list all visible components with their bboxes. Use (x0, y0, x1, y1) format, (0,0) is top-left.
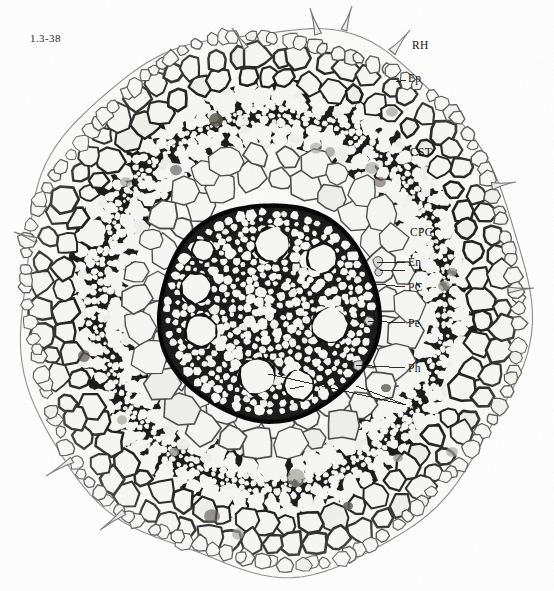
film-grain (0, 0, 554, 591)
plate-number: 1.3-38 (30, 32, 61, 44)
annotation-label-endodermis: En (408, 257, 421, 269)
annotation-label-phloem: Ph (408, 363, 421, 375)
annotation-label-epidermis: Ep (408, 73, 421, 85)
annotation-label-pericycle: Pe (408, 318, 420, 330)
annotation-label-root-hair: RH (412, 40, 429, 52)
micrograph-figure: 1.3-38 RHEpCSTCPCEnPCPePhX (0, 0, 554, 591)
annotation-label-passage-cell: PC (408, 282, 423, 294)
annotation-label-cortex-parenchyma-cells: CPC (410, 227, 433, 239)
annotation-label-xylem: X (410, 400, 419, 412)
annotation-label-cortex-sclerenchyma-tissue: CST (410, 147, 432, 159)
root-cross-section-image (0, 0, 554, 591)
